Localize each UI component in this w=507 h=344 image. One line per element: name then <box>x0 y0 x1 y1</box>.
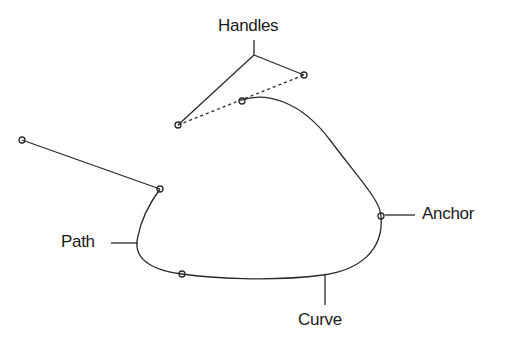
handle-dashed-line <box>178 75 304 125</box>
handle-line-left <box>22 140 160 189</box>
anchor-label: Anchor <box>422 204 474 224</box>
bezier-diagram <box>0 0 507 344</box>
curve-path <box>137 97 381 279</box>
curve-label: Curve <box>298 310 342 330</box>
handle-line-b <box>254 55 304 75</box>
handle-line-a <box>178 55 254 125</box>
handles-label: Handles <box>218 16 278 36</box>
path-label: Path <box>61 232 95 252</box>
